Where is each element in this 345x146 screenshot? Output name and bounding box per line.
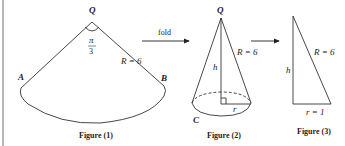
- figure-1-sector: Q π 3 R = 6 A B Figure (1): [17, 5, 167, 140]
- right-angle-marker: [221, 98, 226, 104]
- arc-AB: [20, 86, 165, 123]
- caption-figure-1: Figure (1): [79, 131, 113, 140]
- caption-figure-3: Figure (3): [297, 127, 331, 136]
- figure-3-triangle: h R = 6 r = 1 Figure (3): [286, 16, 335, 136]
- label-slant: R = 6: [236, 47, 258, 57]
- fold-arrow: fold: [142, 28, 189, 41]
- label-Q: Q: [89, 5, 96, 15]
- label-r-triangle: r = 1: [306, 107, 325, 117]
- label-fold: fold: [158, 28, 171, 37]
- label-angle-numerator: π: [89, 35, 94, 45]
- radius-QA: [21, 22, 92, 88]
- diagram-canvas: Q π 3 R = 6 A B Figure (1) fold Q h R = …: [0, 0, 345, 146]
- label-radius: R = 6: [120, 56, 142, 66]
- label-hypotenuse: R = 6: [313, 47, 335, 57]
- label-r-cone: r: [233, 104, 237, 114]
- caption-figure-2: Figure (2): [207, 131, 241, 140]
- label-C: C: [193, 115, 200, 125]
- cone-left-side: [192, 18, 221, 103]
- label-Q-cone: Q: [217, 5, 224, 15]
- label-A: A: [17, 72, 24, 82]
- base-front-arc: [192, 103, 251, 116]
- label-h-cone: h: [213, 62, 218, 72]
- figure-2-cone: Q h R = 6 r C Figure (2): [192, 5, 258, 140]
- label-angle-denominator: 3: [89, 47, 93, 56]
- angle-arc: [85, 27, 99, 31]
- label-B: B: [160, 73, 167, 83]
- label-h-triangle: h: [286, 65, 291, 75]
- base-back-arc: [192, 92, 251, 103]
- diagram-svg: Q π 3 R = 6 A B Figure (1) fold Q h R = …: [0, 0, 345, 146]
- triangle: [293, 16, 331, 104]
- cone-right-side: [221, 18, 251, 103]
- radius-QB: [92, 22, 164, 86]
